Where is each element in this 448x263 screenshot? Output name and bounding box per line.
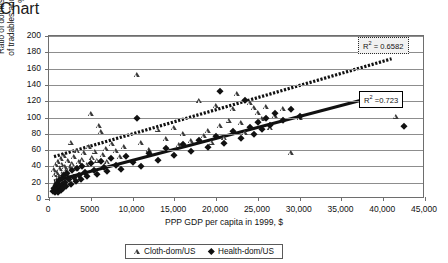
data-point-cloth (138, 140, 144, 145)
data-point-health (259, 126, 265, 132)
r2-health-text: R2 =0.723 (364, 96, 398, 105)
data-point-health (188, 148, 194, 154)
y-tick-80 (45, 134, 49, 135)
filled-diamond-icon (208, 248, 214, 254)
gridline-y-80 (49, 134, 423, 135)
chart-figure: Ratio of domestic to US prices of tradab… (0, 18, 448, 263)
y-tick-180 (45, 52, 49, 53)
data-point-health (288, 106, 294, 112)
data-point-health (238, 135, 244, 141)
legend-label-cloth: Cloth-dom/US (144, 247, 195, 256)
data-point-cloth (288, 150, 294, 155)
r2-cloth-text: R2 = 0.6582 (363, 42, 404, 51)
x-tick-label-45000: 45,000 (394, 205, 448, 214)
data-point-health (104, 168, 110, 174)
data-point-cloth (230, 106, 236, 111)
data-point-health (154, 157, 160, 163)
data-point-health (255, 119, 261, 125)
y-tick-60 (45, 150, 49, 151)
data-point-cloth (68, 140, 74, 145)
data-point-cloth (88, 111, 94, 116)
data-point-cloth (213, 103, 219, 108)
data-point-cloth (242, 130, 248, 135)
data-point-health (221, 139, 227, 145)
data-point-cloth (98, 129, 104, 134)
data-point-cloth (92, 149, 98, 154)
data-point-health (84, 173, 90, 179)
r2-annotation-health: R2 =0.723 (359, 91, 403, 108)
y-tick-label-120: 120 (1, 96, 41, 105)
gridline-y-140 (49, 85, 423, 86)
data-point-cloth (163, 136, 169, 141)
legend-item-health: Health-dom/US (209, 247, 274, 256)
data-point-cloth (100, 152, 106, 157)
x-tick-10000 (133, 197, 134, 201)
data-point-cloth (205, 128, 211, 133)
x-tick-25000 (258, 197, 259, 201)
data-point-cloth (134, 72, 140, 77)
y-tick-label-80: 80 (1, 129, 41, 138)
data-point-health (217, 87, 223, 93)
data-point-health (123, 153, 129, 159)
legend-label-health: Health-dom/US (218, 247, 274, 256)
data-point-cloth (113, 148, 119, 153)
y-tick-160 (45, 69, 49, 70)
data-point-cloth (209, 140, 215, 145)
x-tick-30000 (300, 197, 301, 201)
data-point-cloth (238, 120, 244, 125)
y-tick-200 (45, 36, 49, 37)
data-point-cloth (96, 123, 102, 128)
data-point-cloth (121, 144, 127, 149)
data-point-cloth (154, 127, 160, 132)
data-point-cloth (103, 146, 109, 151)
data-point-cloth (61, 153, 67, 158)
y-tick-label-100: 100 (1, 113, 41, 122)
r2-annotation-cloth: R2 = 0.6582 (358, 37, 409, 54)
legend-item-cloth: Cloth-dom/US (134, 247, 195, 256)
y-tick-label-200: 200 (1, 31, 41, 40)
y-tick-120 (45, 101, 49, 102)
x-tick-5000 (91, 197, 92, 201)
data-point-cloth (69, 161, 75, 166)
x-tick-35000 (341, 197, 342, 201)
data-point-health (133, 114, 139, 120)
x-tick-20000 (216, 197, 217, 201)
y-tick-100 (45, 118, 49, 119)
open-triangle-icon (134, 249, 140, 254)
x-tick-45000 (425, 197, 426, 201)
data-point-health (138, 163, 144, 169)
data-point-health (94, 170, 100, 176)
data-point-health (401, 122, 407, 128)
x-tick-15000 (174, 197, 175, 201)
data-point-cloth (263, 104, 269, 109)
y-tick-label-180: 180 (1, 47, 41, 56)
x-tick-0 (49, 197, 50, 201)
y-tick-label-40: 40 (1, 161, 41, 170)
data-point-cloth (81, 150, 87, 155)
data-point-cloth (196, 98, 202, 103)
data-point-cloth (108, 141, 114, 146)
y-tick-label-140: 140 (1, 80, 41, 89)
x-axis-title: PPP GDP per capita in 1999, $ (0, 217, 448, 227)
data-point-cloth (234, 91, 240, 96)
data-point-cloth (225, 118, 231, 123)
data-point-cloth (280, 106, 286, 111)
data-point-cloth (188, 138, 194, 143)
data-point-cloth (74, 148, 80, 153)
data-point-cloth (221, 135, 227, 140)
data-point-health (171, 152, 177, 158)
plot-area (48, 35, 424, 198)
x-tick-40000 (383, 197, 384, 201)
data-point-cloth (200, 133, 206, 138)
gridline-y-160 (49, 69, 423, 70)
data-point-cloth (217, 123, 223, 128)
y-tick-label-0: 0 (1, 194, 41, 203)
y-tick-label-160: 160 (1, 64, 41, 73)
data-point-cloth (255, 110, 261, 115)
y-tick-40 (45, 166, 49, 167)
y-tick-label-60: 60 (1, 145, 41, 154)
gridline-y-20 (49, 183, 423, 184)
gridline-y-100 (49, 118, 423, 119)
data-point-cloth (179, 131, 185, 136)
data-point-cloth (393, 114, 399, 119)
